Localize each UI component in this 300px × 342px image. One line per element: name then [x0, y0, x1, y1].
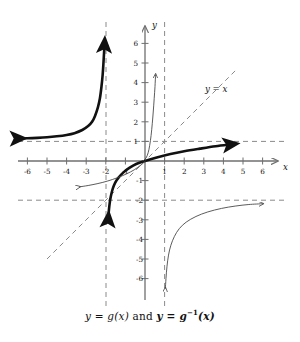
y-tick-label: 2	[133, 118, 138, 127]
x-tick-label: -6	[24, 167, 31, 176]
y-tick-label: -1	[136, 176, 143, 185]
y-axis-label: y	[151, 20, 157, 30]
x-tick-label: -2	[102, 167, 109, 176]
y-tick-label: 6	[133, 39, 138, 48]
caption-suffix-base: y = g	[156, 310, 187, 322]
identity-line-label: y = x	[204, 84, 228, 94]
x-tick-label: -5	[43, 167, 50, 176]
x-tick-label: 4	[221, 167, 226, 176]
y-tick-label: -4	[136, 235, 143, 244]
x-tick-label: -3	[83, 167, 90, 176]
caption-conjunction: and	[132, 310, 152, 322]
y-tick-label: 3	[133, 98, 138, 107]
x-tick-label: 3	[202, 167, 207, 176]
x-axis-label: x	[283, 162, 288, 172]
y-tick-label: -5	[136, 255, 143, 264]
x-tick-label: 6	[260, 167, 265, 176]
caption-prefix: y = g(x)	[85, 310, 129, 322]
x-tick-label: -4	[63, 167, 70, 176]
figure-caption: y = g(x) and y = g−1(x)	[0, 308, 300, 322]
x-tick-label: 2	[182, 167, 187, 176]
x-tick-label: 1	[162, 167, 167, 176]
y-tick-label: -2	[136, 196, 143, 205]
x-tick-label: 5	[241, 167, 246, 176]
function-graph-figure: y = x x y -6 -5 -4 -3	[0, 0, 300, 342]
y-tick-label: 1	[133, 137, 138, 146]
y-tick-label: 4	[133, 78, 138, 87]
caption-suffix-tail: (x)	[198, 310, 215, 322]
y-tick-label: -3	[136, 216, 143, 225]
graph-canvas: y = x x y -6 -5 -4 -3	[0, 0, 300, 342]
y-tick-label: 5	[133, 59, 138, 68]
caption-suffix-exponent: −1	[187, 308, 198, 317]
y-tick-label: -6	[136, 274, 143, 283]
